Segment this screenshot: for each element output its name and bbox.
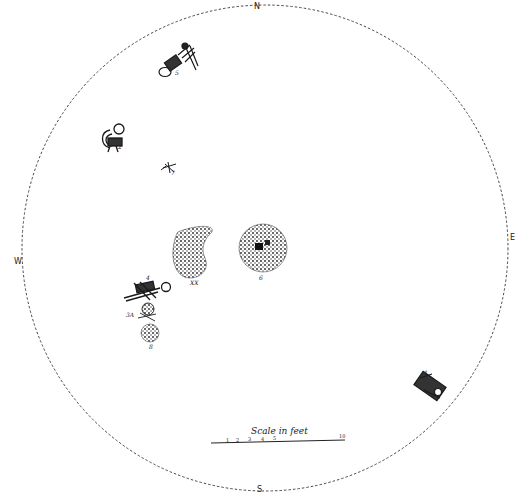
label-feature-6: 6 bbox=[259, 274, 263, 281]
site-plan-diagram bbox=[0, 0, 521, 498]
scale-tick-5: 5 bbox=[273, 435, 276, 441]
scale-tick-3: 3 bbox=[248, 436, 251, 442]
label-feature-2: 2 bbox=[118, 143, 122, 150]
scale-tick-1: 1 bbox=[226, 437, 229, 443]
feature-8-deposit bbox=[141, 324, 159, 342]
label-feature-xx: XX bbox=[190, 279, 199, 286]
compass-north: N bbox=[254, 2, 260, 11]
feature-4-skeleton bbox=[124, 281, 171, 301]
label-feature-7: 7 bbox=[171, 169, 175, 176]
feature-xx-deposit bbox=[173, 226, 212, 278]
scale-tick-10: 10 bbox=[339, 433, 345, 439]
label-feature-5: 5 bbox=[175, 69, 179, 76]
feature-6-dark-core bbox=[255, 243, 263, 250]
label-feature-4: 4 bbox=[146, 274, 150, 281]
scale-bar bbox=[211, 440, 345, 443]
scale-tick-2: 2 bbox=[236, 437, 239, 443]
label-feature-8: 8 bbox=[149, 343, 153, 350]
label-feature-3a: 3A bbox=[126, 311, 134, 318]
compass-west: W bbox=[14, 257, 22, 266]
scale-tick-4: 4 bbox=[261, 436, 264, 442]
compass-south: S bbox=[257, 485, 262, 494]
feature-1-skeleton bbox=[414, 371, 446, 400]
feature-3a-bones bbox=[138, 303, 156, 321]
compass-east: E bbox=[510, 233, 515, 242]
feature-6-dark-core-2 bbox=[265, 240, 270, 245]
scale-title: Scale in feet bbox=[251, 426, 308, 436]
label-feature-1: 1 bbox=[424, 369, 428, 376]
